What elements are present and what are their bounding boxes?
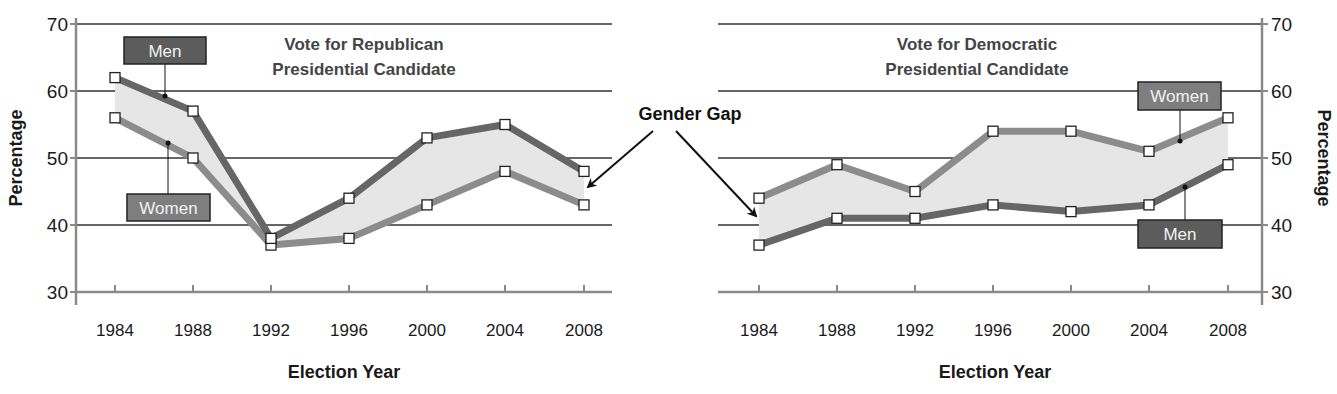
- x-tick-label: 2008: [1209, 321, 1247, 340]
- y-tick-label: 70: [1271, 14, 1292, 35]
- data-point-marker: [579, 166, 589, 176]
- chart-canvas: 30405060701984198819921996200020042008El…: [0, 0, 1337, 394]
- data-point-marker: [188, 153, 198, 163]
- data-point-marker: [344, 193, 354, 203]
- y-tick-label: 50: [47, 148, 68, 169]
- x-axis-label: Election Year: [939, 362, 1052, 382]
- democratic-chart: 30405060701984198819921996200020042008El…: [718, 14, 1334, 382]
- women-leader-dot: [166, 141, 171, 146]
- men-label: Men: [1163, 225, 1196, 244]
- y-tick-label: 60: [1271, 81, 1292, 102]
- y-tick-label: 50: [1271, 148, 1292, 169]
- men-label: Men: [148, 42, 181, 61]
- data-point-marker: [832, 160, 842, 170]
- x-tick-label: 2004: [486, 321, 524, 340]
- y-tick-label: 30: [47, 282, 68, 303]
- chart-title-line: Vote for Republican: [284, 35, 443, 54]
- women-leader-dot: [1178, 139, 1183, 144]
- x-tick-label: 1988: [174, 321, 212, 340]
- data-point-marker: [832, 213, 842, 223]
- y-tick-label: 60: [47, 81, 68, 102]
- data-point-marker: [500, 120, 510, 130]
- data-point-marker: [1144, 200, 1154, 210]
- data-point-marker: [344, 233, 354, 243]
- data-point-marker: [910, 187, 920, 197]
- republican-chart: 30405060701984198819921996200020042008El…: [6, 14, 612, 382]
- gender-gap-annotation: Gender Gap: [588, 104, 756, 216]
- data-point-marker: [988, 126, 998, 136]
- data-point-marker: [266, 233, 276, 243]
- data-point-marker: [579, 200, 589, 210]
- x-tick-label: 1988: [818, 321, 856, 340]
- y-axis-label: Percentage: [6, 109, 26, 206]
- x-tick-label: 2000: [1052, 321, 1090, 340]
- y-axis-label: Percentage: [1314, 109, 1334, 206]
- women-label: Women: [1150, 87, 1208, 106]
- data-point-marker: [754, 193, 764, 203]
- x-tick-label: 2004: [1130, 321, 1168, 340]
- data-point-marker: [422, 133, 432, 143]
- data-point-marker: [910, 213, 920, 223]
- x-tick-label: 1992: [252, 321, 290, 340]
- gender-gap-arrow-left: [588, 131, 653, 187]
- gender-gap-label: Gender Gap: [638, 104, 741, 124]
- x-axis-label: Election Year: [288, 362, 401, 382]
- data-point-marker: [1066, 207, 1076, 217]
- data-point-marker: [1223, 113, 1233, 123]
- data-point-marker: [1066, 126, 1076, 136]
- x-tick-label: 2000: [408, 321, 446, 340]
- chart-title-line: Presidential Candidate: [272, 60, 455, 79]
- data-point-marker: [988, 200, 998, 210]
- x-tick-label: 1984: [740, 321, 778, 340]
- women-label: Women: [139, 199, 197, 218]
- x-tick-label: 2008: [565, 321, 603, 340]
- data-point-marker: [1144, 146, 1154, 156]
- x-tick-label: 1992: [896, 321, 934, 340]
- y-tick-label: 30: [1271, 282, 1292, 303]
- data-point-marker: [110, 73, 120, 83]
- chart-title-line: Presidential Candidate: [885, 60, 1068, 79]
- data-point-marker: [188, 106, 198, 116]
- data-point-marker: [110, 113, 120, 123]
- men-leader-dot: [163, 94, 168, 99]
- y-tick-label: 70: [47, 14, 68, 35]
- men-leader-dot: [1183, 185, 1188, 190]
- x-tick-label: 1984: [96, 321, 134, 340]
- y-tick-label: 40: [47, 215, 68, 236]
- x-tick-label: 1996: [330, 321, 368, 340]
- data-point-marker: [422, 200, 432, 210]
- chart-title-line: Vote for Democratic: [897, 35, 1057, 54]
- data-point-marker: [754, 240, 764, 250]
- gender-gap-figure: 30405060701984198819921996200020042008El…: [0, 0, 1337, 394]
- data-point-marker: [500, 166, 510, 176]
- x-tick-label: 1996: [974, 321, 1012, 340]
- data-point-marker: [1223, 160, 1233, 170]
- gender-gap-arrow-right: [676, 131, 756, 216]
- y-tick-label: 40: [1271, 215, 1292, 236]
